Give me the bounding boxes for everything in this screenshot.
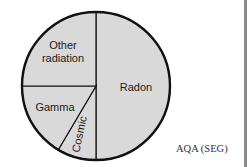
- slice-label-radon: Radon: [120, 81, 152, 93]
- slice-label-line: Gamma: [35, 101, 75, 113]
- slice-label-gamma: Gamma: [35, 101, 75, 113]
- slice-label-line: Other: [49, 39, 77, 51]
- pie-chart: RadonCosmicGammaOtherradiation: [0, 0, 249, 167]
- source-credit: AQA (SEG): [176, 143, 228, 154]
- slice-label-line: Radon: [120, 81, 152, 93]
- page-edge: [244, 0, 247, 167]
- slice-label-line: radiation: [42, 52, 84, 64]
